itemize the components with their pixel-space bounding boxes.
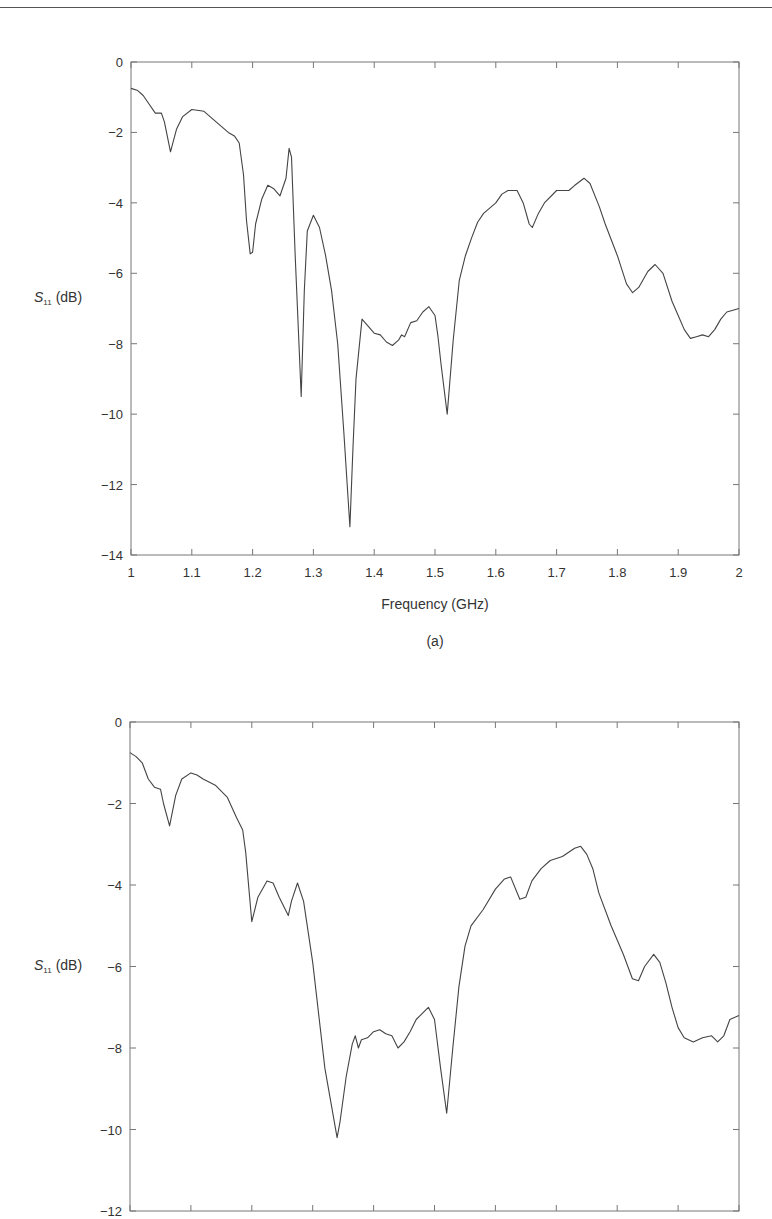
y-tick-label: 0 xyxy=(115,715,122,730)
chart-b-y-ticks: 0−2−4−6−8−10−12 xyxy=(100,715,739,1219)
chart-b: 0−2−4−6−8−10−12 S11(dB) xyxy=(0,0,772,1219)
chart-b-ylabel: S11(dB) xyxy=(34,957,82,975)
chart-b-frame xyxy=(130,722,739,1211)
chart-b-s11-line xyxy=(130,753,739,1138)
y-tick-label: −12 xyxy=(100,1204,122,1219)
y-tick-label: −4 xyxy=(107,878,122,893)
chart-b-x-ticks xyxy=(130,722,739,1211)
y-tick-label: −10 xyxy=(100,1123,122,1138)
y-tick-label: −8 xyxy=(107,1041,122,1056)
y-tick-label: −2 xyxy=(107,797,122,812)
chart-b-plot-area: 0−2−4−6−8−10−12 xyxy=(100,715,739,1219)
y-tick-label: −6 xyxy=(107,960,122,975)
